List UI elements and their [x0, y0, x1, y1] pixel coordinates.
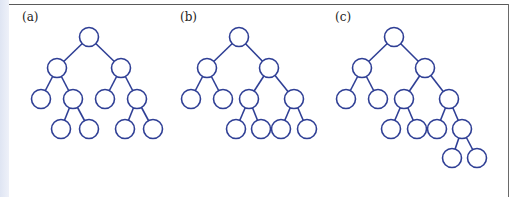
tree-node — [80, 120, 99, 139]
tree-node — [80, 28, 99, 47]
tree-node — [443, 149, 462, 168]
tree-node — [64, 90, 83, 109]
tree-b — [182, 28, 317, 139]
tree-node — [227, 120, 246, 139]
tree-node — [272, 120, 291, 139]
tree-node — [182, 90, 201, 109]
tree-node — [96, 90, 115, 109]
tree-node — [32, 90, 51, 109]
tree-node — [116, 120, 135, 139]
tree-node — [198, 59, 217, 78]
tree-node — [252, 120, 271, 139]
tree-node — [298, 120, 317, 139]
tree-node — [112, 59, 131, 78]
tree-node — [260, 59, 279, 78]
tree-node — [385, 28, 404, 47]
tree-node — [408, 120, 427, 139]
tree-node — [52, 120, 71, 139]
tree-a — [32, 28, 163, 139]
tree-node — [285, 90, 304, 109]
tree-node — [353, 59, 372, 78]
tree-node — [230, 28, 249, 47]
tree-node — [369, 90, 388, 109]
tree-node — [395, 90, 414, 109]
tree-node — [337, 90, 356, 109]
tree-node — [144, 120, 163, 139]
tree-node — [468, 149, 487, 168]
tree-node — [128, 90, 147, 109]
binary-trees-figure — [0, 0, 516, 197]
tree-c — [337, 28, 487, 168]
tree-node — [382, 120, 401, 139]
tree-node — [214, 90, 233, 109]
tree-node — [240, 90, 259, 109]
tree-node — [440, 90, 459, 109]
tree-node — [428, 120, 447, 139]
tree-node — [453, 120, 472, 139]
tree-node — [48, 59, 67, 78]
tree-node — [416, 59, 435, 78]
